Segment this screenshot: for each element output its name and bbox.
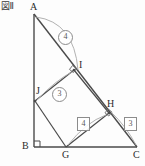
vertex-dot-H xyxy=(108,112,111,115)
vertex-label-C: C xyxy=(133,150,140,160)
inner-quadrilateral-JIHG xyxy=(35,70,109,147)
right-angle-mark-B xyxy=(34,141,40,147)
vertex-label-G: G xyxy=(62,150,69,160)
vertex-dot-I xyxy=(73,69,76,72)
ratio-circle-3: 3 xyxy=(52,87,67,102)
ratio-box-3: 3 xyxy=(124,117,137,131)
segment-GJ xyxy=(35,101,66,147)
segment-IH xyxy=(74,70,109,113)
vertex-label-I: I xyxy=(79,60,82,70)
figure-caption: 図Ⅱ xyxy=(1,1,13,11)
ratio-box-4: 4 xyxy=(77,117,90,131)
vertex-label-J: J xyxy=(36,86,40,96)
vertex-dot-J xyxy=(34,100,37,103)
vertex-label-B: B xyxy=(22,141,29,151)
right-angle-marks xyxy=(34,65,112,147)
vertex-label-H: H xyxy=(107,99,114,109)
vertex-label-A: A xyxy=(30,2,37,12)
geometry-figure: 図Ⅱ A B C G H I J 4 3 4 3 xyxy=(0,0,145,166)
ratio-circle-4: 4 xyxy=(58,30,73,45)
